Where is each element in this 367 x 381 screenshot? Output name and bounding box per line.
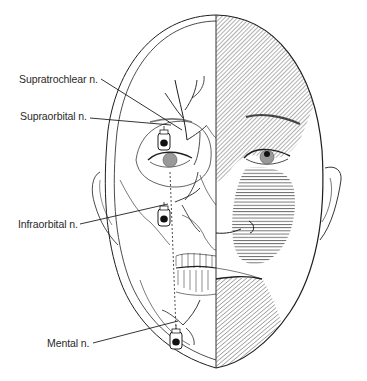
dermatome-shading xyxy=(216,15,316,368)
nerve-block-diagram: Supratrochlear n. Supraorbital n. Infrao… xyxy=(0,0,367,381)
head-illustration xyxy=(0,0,367,381)
leader-infraorbital xyxy=(80,204,168,224)
leader-supraorbital xyxy=(90,118,171,125)
syringe-supraorbital-icon xyxy=(158,126,170,150)
cheek-zone-hatch xyxy=(232,167,295,264)
syringe-mental-icon xyxy=(170,325,182,349)
label-supratrochlear-nerve: Supratrochlear n. xyxy=(19,73,98,85)
label-mental-nerve: Mental n. xyxy=(47,337,89,349)
label-infraorbital-nerve: Infraorbital n. xyxy=(18,218,78,230)
label-supraorbital-nerve: Supraorbital n. xyxy=(20,110,87,122)
